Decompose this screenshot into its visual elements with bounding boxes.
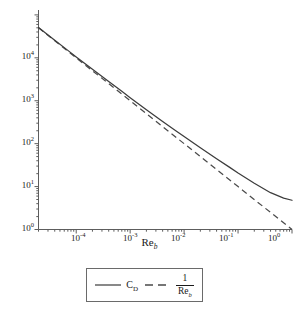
- figure-log-log-drag-coefficient: 104 103 102 101 100 10-4 10-3 10-2 10-1 …: [0, 0, 299, 310]
- fraction-one-over-reynolds: 1 Reb: [176, 274, 194, 297]
- legend-label-drag-coefficient: CD: [126, 280, 138, 290]
- legend-swatch-dashed-line: [145, 281, 171, 289]
- x-axis-title-subscript: b: [154, 242, 158, 251]
- x-axis-title: Reb: [0, 237, 299, 248]
- legend-swatch-solid-line: [95, 281, 121, 289]
- plot-canvas: [0, 0, 299, 256]
- legend-entry-inverse-reynolds: 1 Reb: [145, 274, 194, 297]
- y-tick-label: 102: [8, 138, 34, 147]
- legend-entry-drag-coefficient: CD: [95, 280, 138, 290]
- y-axis-ticks: [35, 15, 39, 230]
- series-line-inverse-reynolds: [39, 28, 293, 230]
- plot-area: 104 103 102 101 100 10-4 10-3 10-2 10-1 …: [0, 0, 299, 256]
- series-line-drag-coefficient: [39, 27, 293, 200]
- y-tick-label: 101: [8, 181, 34, 190]
- legend-box: CD 1 Reb: [86, 268, 203, 302]
- y-tick-label: 103: [8, 95, 34, 104]
- y-tick-label: 100: [8, 224, 34, 233]
- x-axis-title-main: Re: [142, 236, 154, 248]
- y-tick-label: 104: [8, 52, 34, 61]
- legend-label-inverse-reynolds: 1 Reb: [176, 274, 194, 297]
